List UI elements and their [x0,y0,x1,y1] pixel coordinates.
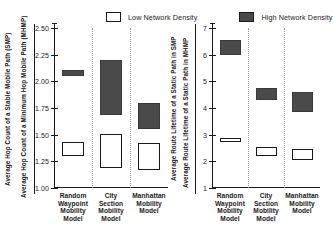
right-xcat-manhattan: Manhattan Mobility Model [284,192,320,222]
left-xcat-random-waypoint: Random Waypoint Mobility Model [54,192,92,222]
right-outer-axis-title: Average Route Lifetime of a Static Path … [170,29,177,189]
right-plot-area: 1234567 [212,28,320,188]
right-xcat-city-section: City Section Mobility Model [248,192,284,222]
right-category-divider [248,28,249,188]
label-line: Waypoint [212,200,248,208]
right-y-tick [209,135,216,136]
right-y-tick [209,28,216,29]
right-y-axis [212,24,213,188]
left-y-tick [51,161,58,162]
label-line: Model [54,215,92,223]
left-category-divider [130,28,131,188]
label-line: Model [248,215,284,223]
left-chart-panel: Average Hop Count of a Stable Mobile Pat… [2,26,174,236]
left-y-tick [51,135,58,136]
left-category-divider [92,28,93,188]
left-range-box-low-0 [62,142,84,156]
label-line: Mobility [92,207,130,215]
right-range-box-low-1 [256,147,277,156]
left-inner-axis-title: Average Hop Count of a Minimum Hop Mobil… [20,26,27,198]
right-y-tick-label: 3 [203,131,207,138]
left-y-tick-label: 2.00 [35,78,49,85]
label-line: Mobility [248,207,284,215]
left-y-tick [51,188,58,189]
right-y-tick [209,81,216,82]
right-chart-panel: Average Route Lifetime of a Static Path … [168,26,324,236]
right-y-tick-label: 4 [203,105,207,112]
left-range-box-high-1 [100,60,122,115]
left-y-tick-label: 2.50 [35,25,49,32]
right-inner-axis-title: Average Route Lifetime of a Static Path … [182,30,189,196]
right-y-tick [209,161,216,162]
label-line: Mobility [212,207,248,215]
label-line: Random [212,192,248,200]
right-y-tick-label: 6 [203,51,207,58]
right-y-tick-label: 5 [203,78,207,85]
right-title-divider [195,24,196,194]
right-y-tick-label: 2 [203,158,207,165]
label-line: Model [92,215,130,223]
right-y-tick-label: 7 [203,25,207,32]
label-line: Model [212,215,248,223]
right-y-tick [209,188,216,189]
left-range-box-high-2 [138,103,160,130]
label-line: Model [284,207,320,215]
right-range-box-high-1 [256,88,277,100]
label-line: Mobility [54,207,92,215]
right-y-tick [209,55,216,56]
legend-entry-low-network-density: Low Network Density [106,12,197,22]
label-line: Model [130,207,168,215]
right-y-tick-label: 1 [203,185,207,192]
legend-swatch-high-icon [239,12,254,22]
left-y-tick-label: 2.25 [35,51,49,58]
left-range-box-low-1 [100,134,122,168]
right-range-box-high-2 [292,92,313,112]
left-x-axis [54,187,168,188]
left-y-tick [51,81,58,82]
right-y-axis-cap [210,23,216,24]
label-line: Manhattan [284,192,320,200]
left-range-box-low-2 [138,143,160,170]
label-line: Manhattan [130,192,168,200]
legend-label-high: High Network Density [261,13,332,22]
left-y-tick-label: 1.25 [35,158,49,165]
right-x-category-labels: Random Waypoint Mobility Model City Sect… [212,192,320,222]
right-category-divider [284,28,285,188]
left-y-tick-label: 1.75 [35,105,49,112]
right-xcat-random-waypoint: Random Waypoint Mobility Model [212,192,248,222]
right-y-tick [209,108,216,109]
label-line: Mobility [284,200,320,208]
left-xcat-manhattan: Manhattan Mobility Model [130,192,168,222]
left-y-tick [51,28,58,29]
left-y-tick-label: 1.00 [35,185,49,192]
left-x-category-labels: Random Waypoint Mobility Model City Sect… [54,192,168,222]
left-y-axis-cap [52,23,58,24]
right-range-box-high-0 [220,40,241,55]
right-x-axis [212,187,320,188]
left-plot-area: 1.001.251.501.752.002.252.50 [54,28,168,188]
left-outer-axis-title: Average Hop Count of a Stable Mobile Pat… [4,29,11,189]
right-range-box-low-2 [292,149,313,160]
legend-entry-high-network-density: High Network Density [239,12,332,22]
label-line: Mobility [130,200,168,208]
left-xcat-city-section: City Section Mobility Model [92,192,130,222]
left-y-tick [51,108,58,109]
left-range-box-high-0 [62,70,84,76]
label-line: City [92,192,130,200]
left-y-tick [51,55,58,56]
label-line: Section [92,200,130,208]
left-y-axis [54,24,55,188]
legend-label-low: Low Network Density [128,13,197,22]
label-line: Section [248,200,284,208]
right-range-box-low-0 [220,138,241,142]
left-y-tick-label: 1.50 [35,131,49,138]
label-line: Waypoint [54,200,92,208]
label-line: Random [54,192,92,200]
legend-swatch-low-icon [106,12,121,22]
label-line: City [248,192,284,200]
